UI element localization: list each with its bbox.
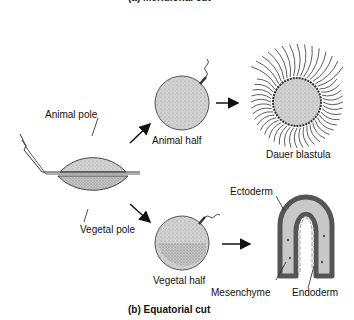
caption-equatorial-cut: (b) Equatorial cut	[128, 304, 210, 315]
label-animal-half: Animal half	[152, 135, 201, 146]
label-ectoderm: Ectoderm	[230, 186, 273, 197]
label-animal-pole: Animal pole	[45, 109, 97, 120]
embryo-diagram	[0, 0, 354, 320]
animal-half-embryo	[155, 59, 209, 130]
label-dauer-blastula: Dauer blastula	[266, 149, 330, 160]
label-mesenchyme: Mesenchyme	[211, 287, 270, 298]
arrow-to-animal-half	[130, 124, 150, 143]
arrow-to-vegetal-half	[130, 204, 150, 222]
vegetal-half-embryo	[155, 214, 220, 270]
label-endoderm: Endoderm	[292, 287, 338, 298]
label-vegetal-pole: Vegetal pole	[80, 224, 135, 235]
dauer-blastula	[251, 44, 343, 148]
whole-embryo	[20, 118, 140, 222]
vegetalized-embryo	[276, 196, 332, 288]
label-vegetal-half: Vegetal half	[153, 275, 205, 286]
